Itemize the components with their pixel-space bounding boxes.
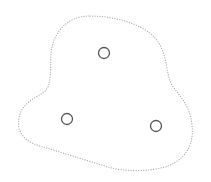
blob-diagram [0, 0, 211, 182]
nodes-group [62, 48, 162, 132]
node-right-circle [151, 121, 162, 132]
node-top-circle [99, 48, 110, 59]
node-left-circle [62, 114, 73, 125]
dotted-region-outline [19, 16, 193, 171]
diagram-canvas [0, 0, 211, 182]
